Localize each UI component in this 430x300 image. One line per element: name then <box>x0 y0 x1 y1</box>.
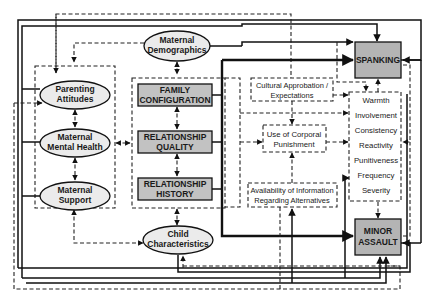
svg-text:Characteristics: Characteristics <box>147 239 209 249</box>
svg-text:FAMILY: FAMILY <box>160 85 191 95</box>
svg-text:Regarding Alternatives: Regarding Alternatives <box>254 196 330 205</box>
svg-text:Use of Corporal: Use of Corporal <box>267 130 322 139</box>
dimension-frequency: Frequency <box>358 171 395 180</box>
svg-text:CONFIGURATION: CONFIGURATION <box>139 95 210 105</box>
dimension-involvement: Involvement <box>355 111 398 120</box>
dimension-consistency: Consistency <box>355 126 398 135</box>
node-minor-assault[interactable]: MINOR ASSAULT <box>355 219 401 255</box>
svg-text:RELATIONSHIP: RELATIONSHIP <box>144 179 207 189</box>
dimension-severity: Severity <box>362 186 390 195</box>
svg-text:Attitudes: Attitudes <box>57 94 94 104</box>
svg-text:MINOR: MINOR <box>364 226 392 236</box>
svg-text:Maternal: Maternal <box>160 35 195 45</box>
svg-text:Support: Support <box>59 195 92 205</box>
node-maternal-demographics: Maternal Demographics <box>144 31 210 61</box>
svg-text:Maternal: Maternal <box>58 132 93 142</box>
node-availability-of-information: Availability of Information Regarding Al… <box>248 183 337 207</box>
svg-text:HISTORY: HISTORY <box>156 189 194 199</box>
svg-text:Child: Child <box>167 229 188 239</box>
svg-text:Cultural Approbation /: Cultural Approbation / <box>256 81 329 90</box>
dimension-punitiveness: Punitiveness <box>354 156 398 165</box>
node-relationship-quality[interactable]: RELATIONSHIP QUALITY <box>138 131 212 153</box>
parenting-dimensions-group: Warmth Involvement Consistency Reactivit… <box>349 92 401 201</box>
conceptual-model-diagram: Maternal Demographics Parenting Attitude… <box>0 0 430 300</box>
solid-bottom-3 <box>26 257 386 283</box>
svg-text:ASSAULT: ASSAULT <box>358 237 398 247</box>
dimension-reactivity: Reactivity <box>359 141 393 150</box>
node-cultural-approbation: Cultural Approbation / Expectations <box>251 78 333 101</box>
svg-text:SPANKING: SPANKING <box>356 55 401 65</box>
dimension-warmth: Warmth <box>363 96 390 105</box>
node-relationship-history[interactable]: RELATIONSHIP HISTORY <box>138 178 212 200</box>
svg-text:Mental Health: Mental Health <box>47 142 102 152</box>
svg-text:Parenting: Parenting <box>55 84 94 94</box>
svg-text:Availability of Information: Availability of Information <box>250 186 333 195</box>
svg-text:Demographics: Demographics <box>147 45 206 55</box>
svg-text:Expectations: Expectations <box>271 91 314 100</box>
node-maternal-mental-health: Maternal Mental Health <box>40 129 110 157</box>
node-use-of-corporal-punishment: Use of Corporal Punishment <box>263 125 326 152</box>
svg-text:RELATIONSHIP: RELATIONSHIP <box>144 132 207 142</box>
node-parenting-attitudes: Parenting Attitudes <box>40 81 110 109</box>
node-family-configuration[interactable]: FAMILY CONFIGURATION <box>138 84 212 106</box>
node-child-characteristics: Child Characteristics <box>143 226 213 254</box>
node-spanking[interactable]: SPANKING <box>355 42 401 78</box>
svg-text:QUALITY: QUALITY <box>156 142 194 152</box>
svg-text:Punishment: Punishment <box>273 140 315 149</box>
node-maternal-support: Maternal Support <box>40 182 110 210</box>
svg-text:Maternal: Maternal <box>58 185 93 195</box>
